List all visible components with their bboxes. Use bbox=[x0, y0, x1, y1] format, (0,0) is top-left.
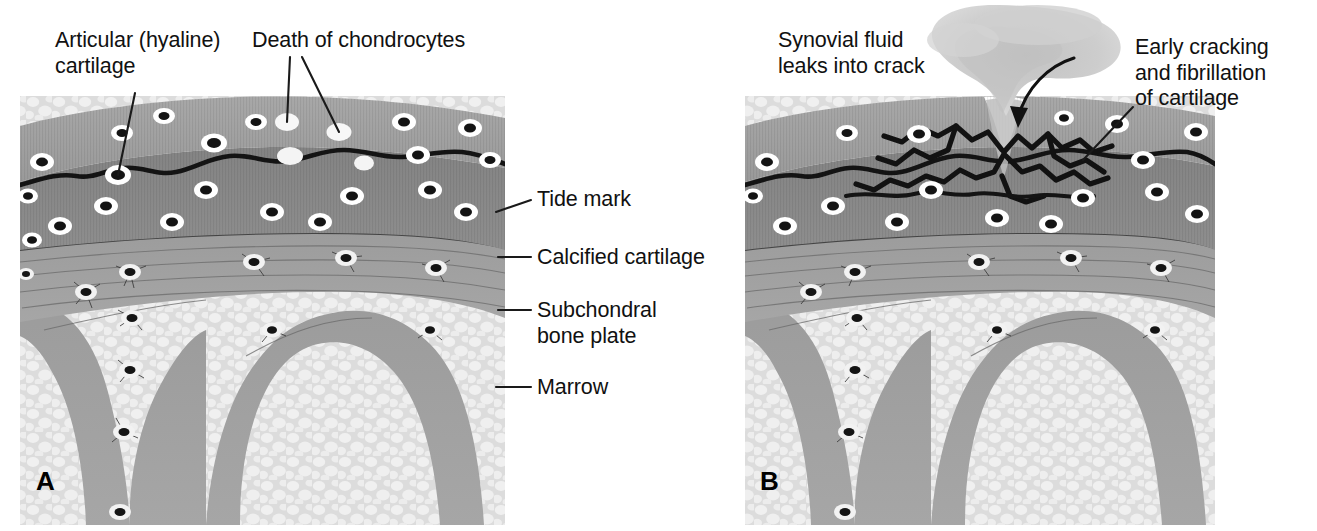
label-marrow: Marrow bbox=[537, 375, 608, 401]
label-calcified-cartilage: Calcified cartilage bbox=[537, 245, 705, 271]
panel-a-artwork bbox=[18, 96, 505, 525]
label-synovial-fluid-leaks: Synovial fluid leaks into crack bbox=[778, 28, 925, 79]
label-tide-mark: Tide mark bbox=[537, 187, 631, 213]
cartilage-hatching-b bbox=[745, 96, 1215, 250]
label-subchondral-bone-plate: Subchondral bone plate bbox=[537, 298, 657, 349]
label-early-cracking: Early cracking and fibrillation of carti… bbox=[1135, 35, 1269, 112]
label-death-of-chondrocytes: Death of chondrocytes bbox=[252, 28, 465, 54]
panel-letter-a: A bbox=[36, 466, 55, 497]
label-articular-cartilage: Articular (hyaline) cartilage bbox=[55, 28, 220, 79]
panel-b-artwork bbox=[743, 96, 1215, 525]
panel-letter-b: B bbox=[760, 466, 779, 497]
figure-canvas: Articular (hyaline) cartilage Death of c… bbox=[0, 0, 1317, 531]
